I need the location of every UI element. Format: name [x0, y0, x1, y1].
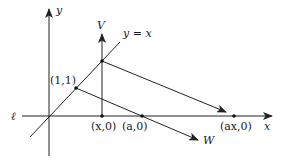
point-1-1-label: (1,1)	[50, 74, 76, 87]
line-l-label: ℓ	[11, 110, 16, 123]
y-axis-label: y	[55, 4, 63, 17]
projection-line-to-ax0	[102, 61, 226, 112]
w-label: W	[203, 134, 216, 147]
point-ax0-label: (ax,0)	[220, 120, 252, 133]
diagram-canvas: y x ℓ y = x V W (1,1) (x,0) (a,0) (ax,0)	[0, 0, 287, 166]
point-a-0	[140, 114, 144, 118]
point-a0-label: (a,0)	[122, 120, 148, 133]
x-axis-label: x	[264, 120, 271, 133]
point-x-x	[100, 59, 104, 63]
v-label: V	[97, 19, 106, 32]
point-ax-0	[232, 114, 236, 118]
point-x-0	[100, 114, 104, 118]
line-yx-label: y = x	[122, 27, 152, 40]
point-x0-label: (x,0)	[91, 120, 116, 133]
